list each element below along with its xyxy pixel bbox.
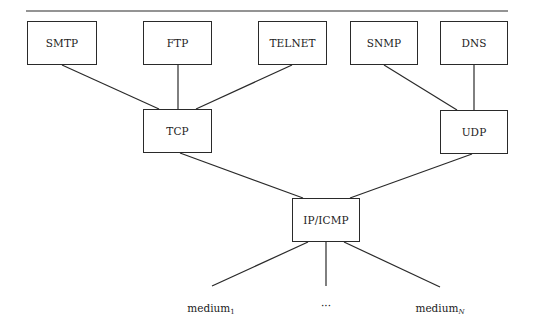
ip-icmp-node: IP/ICMP (292, 198, 360, 242)
edge-telnet-tcp (196, 65, 292, 109)
smtp-node: SMTP (27, 21, 97, 65)
tcp-node: TCP (143, 109, 212, 153)
ip-icmp-label: IP/ICMP (303, 214, 348, 226)
dns-label: DNS (461, 37, 486, 49)
udp-node: UDP (440, 110, 508, 154)
ftp-label: FTP (167, 37, 189, 49)
dns-node: DNS (440, 21, 508, 65)
telnet-label: TELNET (269, 37, 315, 49)
telnet-node: TELNET (258, 21, 327, 65)
medium-n-label: mediumN (415, 302, 464, 316)
edge-ipicmp-mediumN (344, 242, 440, 287)
ftp-node: FTP (143, 21, 212, 65)
edge-snmp-udp (384, 65, 457, 110)
edge-udp-ipicmp (350, 154, 472, 198)
smtp-label: SMTP (46, 37, 78, 49)
medium-1-label: medium1 (187, 302, 234, 316)
media-ellipsis: ··· (321, 300, 331, 312)
edge-tcp-ipicmp (180, 153, 303, 198)
edge-smtp-tcp (62, 65, 159, 109)
udp-label: UDP (462, 126, 487, 138)
snmp-label: SNMP (367, 37, 402, 49)
edge-ipicmp-medium1 (212, 242, 308, 286)
tcp-label: TCP (166, 125, 188, 137)
snmp-node: SNMP (350, 21, 418, 65)
